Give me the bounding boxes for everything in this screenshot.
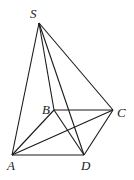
edge-bd: [54, 110, 84, 155]
vertex-label-b: B: [42, 102, 50, 117]
pyramid-diagram: S A B C D: [0, 0, 134, 180]
edge-sd: [39, 23, 84, 155]
labels-group: S A B C D: [6, 6, 126, 173]
vertex-label-c: C: [117, 105, 126, 120]
edge-sb: [39, 23, 54, 110]
vertex-label-a: A: [6, 158, 15, 173]
edge-sa: [12, 23, 39, 155]
edge-sc: [39, 23, 113, 110]
vertex-label-d: D: [80, 158, 91, 173]
edges-group: [12, 23, 113, 155]
vertex-label-s: S: [30, 6, 37, 21]
